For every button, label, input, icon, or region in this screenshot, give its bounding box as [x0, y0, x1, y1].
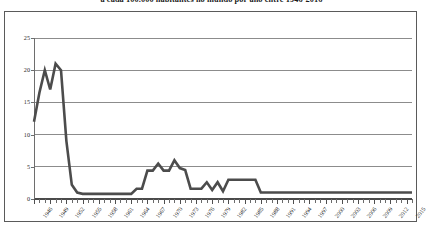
x-tick-mark [147, 199, 148, 204]
data-series-line [34, 38, 412, 199]
x-tick-label: 1973 [187, 206, 199, 219]
x-tick-mark [201, 199, 202, 203]
x-tick-mark [315, 199, 316, 203]
x-tick-mark [34, 199, 35, 204]
x-tick-mark [374, 199, 375, 204]
x-tick-mark [153, 199, 154, 203]
x-tick-mark [223, 199, 224, 203]
x-tick-mark [93, 199, 94, 203]
x-tick-mark [56, 199, 57, 203]
x-tick-mark [282, 199, 283, 203]
x-tick-mark [61, 199, 62, 203]
x-tick-label: 1946 [42, 206, 54, 219]
x-tick-mark [245, 199, 246, 204]
x-tick-mark [353, 199, 354, 203]
x-tick-mark [104, 199, 105, 203]
x-tick-mark [401, 199, 402, 203]
x-tick-mark [342, 199, 343, 204]
x-tick-mark [277, 199, 278, 204]
x-tick-mark [99, 199, 100, 204]
plot-area: 0510152025 19461949195219551958196119641… [34, 38, 412, 199]
x-tick-label: 1991 [285, 206, 297, 219]
x-tick-mark [66, 199, 67, 204]
x-tick-mark [169, 199, 170, 203]
x-tick-mark [228, 199, 229, 204]
x-tick-mark [261, 199, 262, 204]
x-tick-mark [142, 199, 143, 203]
y-tick-label: 0 [16, 196, 30, 202]
x-tick-mark [288, 199, 289, 203]
x-tick-mark [164, 199, 165, 204]
x-tick-mark [326, 199, 327, 204]
x-tick-label: 1982 [236, 206, 248, 219]
x-tick-mark [212, 199, 213, 204]
x-tick-label: 1985 [252, 206, 264, 219]
plot-inner: 0510152025 [34, 38, 412, 199]
x-tick-mark [50, 199, 51, 204]
series-path [34, 64, 412, 194]
x-tick-mark [309, 199, 310, 204]
x-tick-mark [293, 199, 294, 204]
y-tick-label: 10 [16, 132, 30, 138]
x-tick-mark [380, 199, 381, 203]
x-tick-label: 1976 [204, 206, 216, 219]
y-tick-label: 25 [16, 35, 30, 41]
x-tick-mark [174, 199, 175, 203]
x-tick-label: 2003 [349, 206, 361, 219]
x-tick-mark [77, 199, 78, 203]
x-tick-mark [110, 199, 111, 203]
x-tick-mark [255, 199, 256, 203]
x-tick-label: 1979 [220, 206, 232, 219]
x-tick-mark [180, 199, 181, 204]
x-tick-mark [191, 199, 192, 203]
x-tick-mark [72, 199, 73, 203]
x-tick-label: 1952 [74, 206, 86, 219]
x-tick-mark [239, 199, 240, 203]
x-tick-mark [196, 199, 197, 204]
x-tick-label: 1964 [139, 206, 151, 219]
y-tick-label: 20 [16, 67, 30, 73]
x-tick-mark [126, 199, 127, 203]
x-tick-mark [336, 199, 337, 203]
x-tick-mark [320, 199, 321, 203]
x-tick-mark [83, 199, 84, 204]
x-tick-mark [39, 199, 40, 203]
y-tick-label: 15 [16, 99, 30, 105]
x-tick-mark [120, 199, 121, 203]
x-tick-mark [158, 199, 159, 203]
x-tick-mark [234, 199, 235, 203]
x-tick-mark [131, 199, 132, 204]
x-tick-mark [363, 199, 364, 203]
x-tick-mark [396, 199, 397, 203]
x-tick-label: 1970 [171, 206, 183, 219]
x-tick-mark [45, 199, 46, 203]
chart-frame: 0510152025 19461949195219551958196119641… [4, 11, 417, 222]
x-tick-mark [218, 199, 219, 203]
x-tick-label: 1958 [106, 206, 118, 219]
x-tick-mark [207, 199, 208, 203]
x-tick-mark [299, 199, 300, 203]
x-tick-label: 2006 [366, 206, 378, 219]
chart-title: a cada 100.000 habitantes no mundo por a… [0, 0, 423, 6]
x-tick-mark [115, 199, 116, 204]
x-tick-mark [369, 199, 370, 203]
x-tick-mark [390, 199, 391, 204]
x-tick-label: 2012 [398, 206, 410, 219]
y-tick-label: 5 [16, 164, 30, 170]
x-tick-mark [137, 199, 138, 203]
x-tick-label: 1955 [90, 206, 102, 219]
x-tick-mark [304, 199, 305, 203]
x-tick-label: 1994 [301, 206, 313, 219]
x-tick-label: 1988 [268, 206, 280, 219]
x-tick-mark [88, 199, 89, 203]
x-tick-label: 1967 [155, 206, 167, 219]
x-tick-mark [250, 199, 251, 203]
x-tick-mark [358, 199, 359, 204]
x-tick-mark [407, 199, 408, 204]
x-tick-label: 1949 [58, 206, 70, 219]
x-tick-mark [385, 199, 386, 203]
x-tick-label: 2000 [333, 206, 345, 219]
x-tick-label: 2015 [414, 206, 426, 219]
x-tick-mark [412, 199, 413, 203]
